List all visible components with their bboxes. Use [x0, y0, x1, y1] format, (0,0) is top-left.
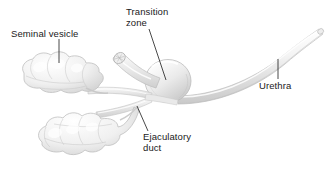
urethra-structure — [176, 27, 325, 104]
anatomy-figure: Seminal vesicle Transition zone Urethra … — [0, 0, 332, 175]
label-seminal-vesicle: Seminal vesicle — [11, 28, 79, 39]
label-urethra: Urethra — [259, 80, 291, 91]
leader-ejaculatory-duct — [137, 106, 148, 131]
label-transition-zone: Transition zone — [126, 6, 168, 28]
lower-seminal-vesicle — [39, 107, 139, 155]
upper-seminal-vesicle — [23, 52, 108, 93]
label-ejaculatory-duct: Ejaculatory duct — [143, 131, 191, 153]
